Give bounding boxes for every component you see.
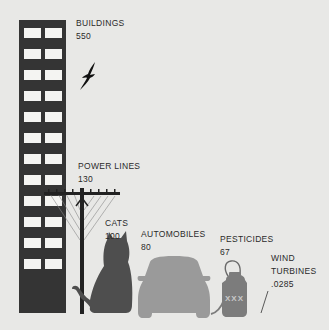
label-pesticides-name: PESTICIDES — [220, 233, 274, 246]
car-icon — [138, 256, 211, 318]
label-buildings-value: 550 — [76, 30, 125, 43]
label-wind-turbines: WIND TURBINES .0285 — [271, 252, 316, 291]
label-wind-turbines-value: .0285 — [271, 278, 316, 291]
label-power-lines-name: POWER LINES — [78, 160, 140, 173]
infographic-canvas: XXX BUILDINGS 550 POWER LINES 130 CATS 1… — [0, 0, 329, 330]
label-automobiles: AUTOMOBILES 80 — [141, 228, 206, 254]
label-power-lines: POWER LINES 130 — [78, 160, 140, 186]
wind-turbine-icon — [261, 291, 268, 313]
label-buildings-name: BUILDINGS — [76, 17, 125, 30]
bird-icon — [80, 62, 95, 90]
pesticide-sprayer-icon: XXX — [211, 261, 247, 317]
label-buildings: BUILDINGS 550 — [76, 17, 125, 43]
label-automobiles-value: 80 — [141, 241, 206, 254]
label-automobiles-name: AUTOMOBILES — [141, 228, 206, 241]
label-power-lines-value: 130 — [78, 173, 140, 186]
label-wind-turbines-name-2: TURBINES — [271, 265, 316, 278]
label-pesticides: PESTICIDES 67 — [220, 233, 274, 259]
label-wind-turbines-name-1: WIND — [271, 252, 316, 265]
label-cats-name: CATS — [105, 217, 128, 230]
label-cats-value: 100 — [105, 230, 128, 243]
svg-text:XXX: XXX — [225, 294, 244, 303]
label-cats: CATS 100 — [105, 217, 128, 243]
label-pesticides-value: 67 — [220, 246, 274, 259]
building-icon — [19, 20, 66, 313]
